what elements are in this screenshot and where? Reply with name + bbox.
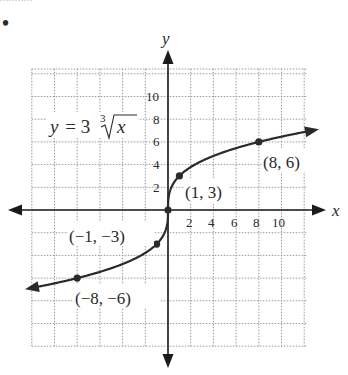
label-neg1-neg3: (−1, −3) (69, 227, 125, 246)
x-tick: 2 (186, 215, 193, 230)
eq-lhs: y (48, 116, 59, 137)
label-neg8-neg6: (−8, −6) (75, 289, 131, 308)
y-tick: 2 (153, 180, 160, 195)
equation-label: y = 3 3 x (46, 112, 138, 138)
y-axis-up-arrow-icon (163, 50, 174, 64)
point-1-3 (176, 172, 183, 179)
y-tick: 6 (153, 134, 160, 149)
y-tick: 10 (146, 89, 159, 104)
curve-left-arrow-icon (25, 281, 40, 292)
point-neg1-neg3 (153, 241, 160, 248)
point-neg8-neg6 (74, 275, 81, 282)
y-axis-label: y (160, 29, 170, 48)
x-tick: 10 (272, 215, 285, 230)
eq-equals: = (65, 116, 76, 137)
point-origin (164, 206, 171, 213)
y-tick: 8 (153, 112, 160, 127)
eq-coefficient: 3 (81, 116, 91, 137)
y-axis-down-arrow-icon (163, 354, 174, 368)
eq-root-index: 3 (100, 112, 106, 124)
x-axis-left-arrow-icon (8, 205, 22, 216)
x-tick: 4 (208, 215, 215, 230)
x-tick: 6 (231, 215, 238, 230)
curve-right-arrow-icon (304, 127, 319, 138)
y-tick-labels: 2 4 6 8 10 (146, 89, 160, 195)
x-tick: 8 (253, 215, 260, 230)
y-tick: 4 (153, 157, 160, 172)
list-bullet: • (2, 12, 9, 34)
label-8-6: (8, 6) (263, 153, 300, 172)
x-axis-label: x (331, 201, 340, 220)
cube-root-graph: • x y 2 4 6 8 10 2 4 6 8 10 y = 3 3 x (0, 0, 348, 375)
label-1-3: (1, 3) (185, 183, 222, 202)
x-tick-labels: 2 4 6 8 10 (186, 215, 285, 230)
eq-radicand: x (116, 116, 126, 137)
svg-text:y = 3: y = 3 (48, 116, 90, 137)
point-8-6 (255, 138, 262, 145)
x-axis-right-arrow-icon (312, 205, 326, 216)
